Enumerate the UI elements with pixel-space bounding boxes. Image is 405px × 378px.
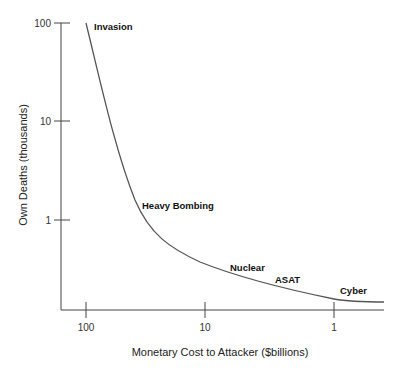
label-asat: ASAT [275,274,300,285]
label-heavy-bombing: Heavy Bombing [142,200,214,211]
x-tick-label-1: 1 [331,322,337,333]
y-tick-label-100: 100 [34,18,51,29]
y-axis-title: Own Deaths (thousands) [17,104,29,226]
label-invasion: Invasion [94,21,133,32]
cost-deaths-curve [86,23,384,302]
label-nuclear: Nuclear [230,262,265,273]
chart: 100 10 1 100 10 1 Monetary Cost to Attac… [0,0,405,378]
x-axis-title: Monetary Cost to Attacker ($billions) [132,346,309,358]
y-tick-label-10: 10 [40,116,52,127]
x-tick-label-100: 100 [78,322,95,333]
y-tick-label-1: 1 [45,215,51,226]
label-cyber: Cyber [340,285,367,296]
x-tick-label-10: 10 [199,322,211,333]
